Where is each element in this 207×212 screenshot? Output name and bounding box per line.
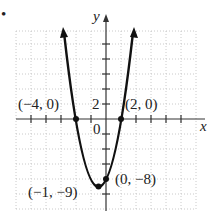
label-left-root: (−4, 0) bbox=[18, 96, 59, 113]
y-tick-label: 2 bbox=[92, 96, 100, 112]
label-vertex: (−1, −9) bbox=[28, 184, 77, 201]
left-arrowhead-icon bbox=[60, 27, 68, 38]
point-vertex bbox=[96, 184, 102, 190]
axes bbox=[16, 20, 205, 211]
y-axis-label: y bbox=[91, 8, 100, 24]
point-right-root bbox=[118, 116, 124, 122]
list-bullet: • bbox=[1, 6, 6, 22]
point-left-root bbox=[73, 116, 79, 122]
point-y-intercept bbox=[103, 176, 109, 182]
origin-label: 0 bbox=[93, 121, 101, 137]
x-axis-label: x bbox=[199, 118, 207, 134]
right-arrowhead-icon bbox=[130, 27, 138, 38]
label-y-intercept: (0, −8) bbox=[115, 171, 156, 188]
parabola-graph: • bbox=[0, 0, 207, 212]
label-right-root: (2, 0) bbox=[125, 96, 158, 113]
y-axis-arrow-icon bbox=[103, 14, 109, 22]
